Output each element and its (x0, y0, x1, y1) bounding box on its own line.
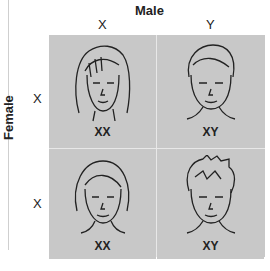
cell-xx-top: XX (49, 35, 156, 145)
grid-divider-vertical (156, 35, 157, 257)
genotype-label: XX (49, 239, 156, 253)
grid-divider-horizontal (49, 148, 265, 149)
row-label-x-1: X (33, 91, 42, 106)
column-label-x: X (98, 17, 107, 32)
cell-xy-bottom: XY (157, 149, 264, 259)
genotype-label: XY (157, 125, 264, 139)
boy-face-icon (177, 155, 243, 245)
column-label-y: Y (206, 17, 215, 32)
male-axis-title: Male (135, 3, 164, 18)
genotype-label: XY (157, 239, 264, 253)
cell-xx-bottom: XX (49, 149, 156, 259)
genotype-label: XX (49, 125, 156, 139)
girl-face-icon (69, 41, 135, 131)
female-axis-title: Female (1, 95, 16, 140)
boy-face-icon (177, 41, 243, 131)
punnett-square: XX XY XX (49, 35, 265, 257)
cell-xy-top: XY (157, 35, 264, 145)
girl-face-icon (69, 155, 135, 245)
row-label-x-2: X (33, 196, 42, 211)
